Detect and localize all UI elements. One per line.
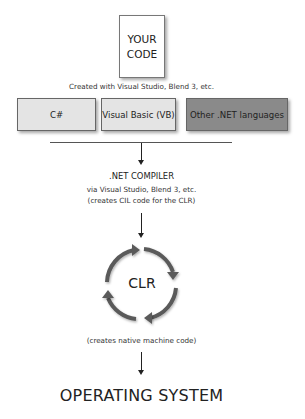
- your-code-line1: YOUR: [127, 32, 156, 47]
- operating-system-label: OPERATING SYSTEM: [0, 386, 283, 405]
- compiler-title: .NET COMPILER: [0, 171, 283, 181]
- language-csharp-box: C#: [17, 98, 96, 131]
- source-caption: Created with Visual Studio, Blend 3, etc…: [0, 82, 283, 91]
- language-label: Visual Basic (VB): [102, 110, 174, 120]
- clr-caption: (creates native machine code): [0, 336, 283, 345]
- your-code-box: YOUR CODE: [119, 15, 165, 78]
- your-code-line2: CODE: [127, 47, 157, 62]
- arrow-shaft: [141, 213, 142, 234]
- language-label: C#: [50, 110, 63, 120]
- arrow-shaft: [141, 143, 142, 161]
- language-vb-box: Visual Basic (VB): [101, 98, 176, 131]
- down-arrow-icon: [138, 233, 144, 238]
- down-arrow-icon: [138, 160, 144, 165]
- clr-label: CLR: [98, 275, 186, 291]
- language-other-box: Other .NET languages: [186, 98, 288, 131]
- compiler-line1: via Visual Studio, Blend 3, etc.: [0, 185, 283, 194]
- arrow-shaft: [141, 352, 142, 371]
- compiler-line2: (creates CIL code for the CLR): [0, 196, 283, 205]
- down-arrow-icon: [138, 370, 144, 375]
- language-label: Other .NET languages: [190, 110, 284, 120]
